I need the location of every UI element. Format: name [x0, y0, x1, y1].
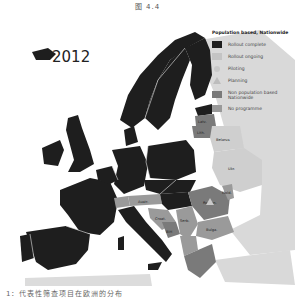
region-finland — [185, 38, 212, 100]
region-denmark — [124, 126, 138, 146]
label-croatia: Croat. — [155, 217, 166, 221]
region-north-africa — [25, 274, 152, 286]
legend-item-rollout-complete: Rollout complete — [212, 39, 295, 50]
label-bosnia: BiH — [166, 230, 172, 234]
label-latvia: Latv. — [198, 120, 207, 124]
region-sicily — [148, 262, 162, 270]
label-belarus: Belarus — [216, 138, 230, 142]
legend-label: No programme — [228, 106, 262, 111]
legend-item-rollout-ongoing: Rollout ongoing — [212, 51, 295, 62]
legend-item-no-programme: No programme — [212, 103, 295, 114]
legend-label: Piloting — [228, 66, 245, 71]
swatch-light-square-icon — [212, 53, 222, 60]
region-switzerland — [114, 196, 130, 208]
label-moldova: Mold. — [222, 191, 232, 195]
legend-header: Population based, Nationwide — [212, 30, 295, 35]
region-czech-slovakia — [144, 180, 196, 194]
legend-item-piloting: Piloting — [212, 63, 295, 74]
region-serbia — [176, 206, 198, 240]
label-austria: Austr. — [138, 200, 148, 204]
swatch-dark-square-icon — [212, 41, 222, 48]
label-lithuania: Lith. — [197, 131, 205, 135]
region-uk — [66, 115, 94, 172]
figure-caption: 1：代表性筛查项目在欧洲的分布 — [6, 288, 123, 298]
region-poland — [146, 140, 196, 180]
region-ireland — [42, 140, 64, 166]
label-serbia: Serb. — [180, 219, 189, 223]
label-bulgaria: Bulga. — [206, 228, 217, 232]
label-ukraine: Ukr. — [228, 167, 235, 171]
legend-item-planning: Planning — [212, 75, 295, 86]
year-label: 2012 — [52, 48, 90, 66]
legend-label: Rollout ongoing — [228, 54, 263, 59]
region-france — [60, 178, 118, 235]
swatch-mid-square-icon — [212, 91, 222, 98]
figure-title: 图 4.4 — [0, 1, 295, 11]
legend-label: Planning — [228, 78, 247, 83]
legend-item-non-population: Non population based Nationwide — [212, 87, 295, 102]
circle-icon — [214, 66, 220, 72]
triangle-icon — [213, 77, 221, 84]
region-turkey — [215, 250, 295, 285]
swatch-gray-square-icon — [212, 105, 222, 112]
region-germany — [112, 146, 148, 194]
region-sardinia — [118, 236, 124, 250]
legend-label: Rollout complete — [228, 42, 266, 47]
legend-label: Non population based Nationwide — [228, 90, 295, 100]
map-legend: Population based, Nationwide Rollout com… — [212, 30, 295, 115]
region-spain — [26, 226, 90, 270]
region-estonia — [195, 104, 212, 116]
